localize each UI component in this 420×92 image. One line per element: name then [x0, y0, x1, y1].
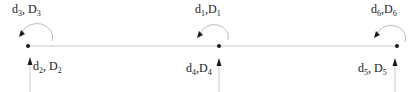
- rotation-label: d3, D3: [12, 2, 41, 18]
- rotation-label: d1,D1: [195, 2, 221, 18]
- rotation-arrow-icon: [377, 25, 406, 42]
- rotation-arrowhead-icon: [374, 31, 380, 38]
- axial-label: d5, D5: [358, 61, 387, 77]
- axial-arrowhead-icon: [28, 57, 33, 65]
- node-middle: d1,D1 d4,D4: [186, 2, 228, 92]
- axial-label: d4,D4: [186, 61, 212, 77]
- axial-arrowhead-icon: [217, 58, 222, 66]
- rotation-arrowhead-icon: [197, 31, 203, 38]
- rotation-arrow-icon: [22, 24, 53, 41]
- node-dot: [395, 44, 399, 48]
- axial-arrowhead-icon: [393, 58, 398, 66]
- beam-diagram: d3, D3 d2, D2 d1,D1 d4,D4 d6,D6 d5, D5: [0, 0, 420, 92]
- rotation-label: d6,D6: [371, 2, 397, 18]
- axial-label: d2, D2: [33, 59, 62, 75]
- node-dot: [217, 44, 221, 48]
- node-left: d3, D3 d2, D2: [12, 2, 62, 92]
- rotation-arrowhead-icon: [19, 30, 25, 37]
- node-dot: [26, 44, 30, 48]
- node-right: d6,D6 d5, D5: [358, 2, 406, 92]
- rotation-arrow-icon: [200, 25, 228, 40]
